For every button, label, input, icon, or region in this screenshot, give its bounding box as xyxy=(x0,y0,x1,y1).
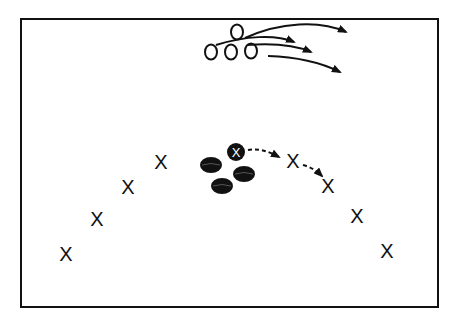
skate-arrow xyxy=(245,24,346,38)
defense-player-x: X xyxy=(59,243,72,265)
defense-player-x: X xyxy=(90,208,103,230)
offense-player-o xyxy=(225,45,237,60)
defense-player-x: X xyxy=(350,205,363,227)
offense-players xyxy=(205,25,257,60)
offense-player-o xyxy=(231,25,243,40)
defense-player-x: X xyxy=(154,151,167,173)
offense-player-o xyxy=(205,45,217,60)
defense-players: XXXXXXXX xyxy=(59,150,393,265)
pucks xyxy=(200,157,255,194)
play-diagram: XXXXXXXX X xyxy=(0,0,455,324)
puck-icon xyxy=(233,166,255,182)
puck-carrier-x: X xyxy=(232,145,241,160)
pass-paths xyxy=(248,149,322,176)
pass-arrow xyxy=(248,149,279,157)
defense-player-x: X xyxy=(121,176,134,198)
defense-player-x: X xyxy=(380,240,393,262)
offense-player-o xyxy=(245,44,257,59)
defense-player-x: X xyxy=(286,150,299,172)
rink-border xyxy=(21,19,438,307)
puck-icon xyxy=(200,157,222,173)
defense-player-x: X xyxy=(321,175,334,197)
pass-arrow xyxy=(303,165,322,176)
puck-carrier: X xyxy=(227,143,245,161)
puck-icon xyxy=(211,178,233,194)
diagram-canvas: XXXXXXXX X xyxy=(0,0,455,324)
skate-arrow xyxy=(268,56,340,72)
